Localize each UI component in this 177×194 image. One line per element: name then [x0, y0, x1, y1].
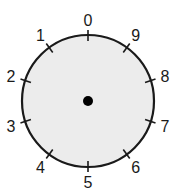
dial-label: 1 — [36, 27, 45, 44]
dial-label: 5 — [84, 174, 93, 191]
center-dot — [83, 96, 93, 106]
dial-label: 0 — [84, 12, 93, 29]
dial-label: 6 — [131, 159, 140, 176]
dial-label: 4 — [36, 159, 45, 176]
rotary-dial-diagram: 0987654321 — [0, 0, 177, 194]
dial-label: 7 — [161, 118, 170, 135]
dial-label: 9 — [131, 27, 140, 44]
dial-label: 8 — [161, 68, 170, 85]
dial-label: 2 — [7, 68, 16, 85]
dial-label: 3 — [7, 118, 16, 135]
